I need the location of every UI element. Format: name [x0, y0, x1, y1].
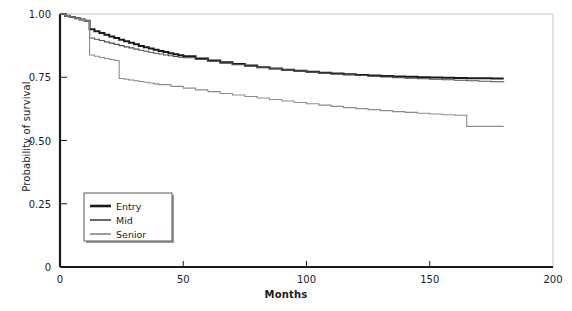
legend-label-entry[interactable]: Entry: [116, 201, 142, 212]
y-tick-label: 0.25: [29, 199, 51, 210]
x-tick-label: 0: [57, 274, 63, 285]
series-lines: [60, 14, 504, 126]
y-tick-label: 0.50: [29, 136, 51, 147]
x-tick-label: 200: [543, 274, 562, 285]
legend-box[interactable]: EntryMidSenior: [84, 193, 174, 243]
series-line-mid: [60, 14, 504, 82]
y-tick-label: 0: [45, 262, 51, 273]
plot-canvas: 05010015020000.250.500.751.00 EntryMidSe…: [0, 0, 572, 311]
x-tick-label: 150: [420, 274, 439, 285]
x-axis-title: Months: [0, 289, 572, 300]
x-tick-label: 100: [297, 274, 316, 285]
legend-label-mid[interactable]: Mid: [116, 215, 133, 226]
survival-chart-figure: Probability of survival 05010015020000.2…: [0, 0, 572, 311]
y-tick-label: 1.00: [29, 9, 51, 20]
axis-ticks: 05010015020000.250.500.751.00: [29, 9, 563, 285]
x-tick-label: 50: [177, 274, 190, 285]
legend-label-senior[interactable]: Senior: [116, 229, 146, 240]
y-tick-label: 0.75: [29, 72, 51, 83]
